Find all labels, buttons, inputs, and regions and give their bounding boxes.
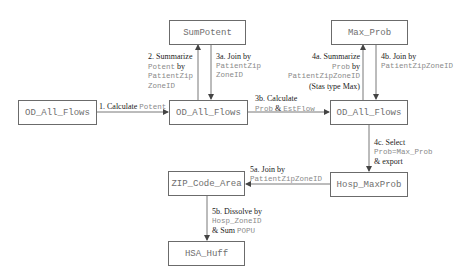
node-od-all-flows-input: OD_All_Flows [18, 100, 97, 125]
step3b-title: 3b. Calculate [255, 94, 315, 104]
node-od-all-flows-middle: OD_All_Flows [169, 100, 248, 125]
step4c-code1: Prob=Max_Prob [374, 148, 433, 158]
label-step4c: 4c. Select Prob=Max_Prob & export [374, 138, 433, 167]
node-sum-potent: SumPotent [169, 20, 246, 45]
node-hsa-huff: HSA_Huff [168, 241, 245, 266]
step4a-by: by [352, 62, 360, 71]
step2-code1: Potent [148, 63, 175, 71]
label-step5a: 5a. Join by PatientZipZoneID [250, 165, 322, 184]
step4a-code2: PatientZipZoneID [280, 72, 360, 82]
step5a-title: 5a. Join by [250, 165, 322, 175]
label-step3a: 3a. Join by PatientZip ZoneID [216, 52, 261, 81]
step3a-code2: ZoneID [216, 71, 261, 81]
step5b-code2: POPU [237, 227, 255, 235]
step4a-code1: Prob [332, 63, 350, 71]
step4c-export: & export [374, 157, 433, 167]
node-max-prob: Max_Prob [331, 20, 408, 45]
step4c-title: 4c. Select [374, 138, 433, 148]
node-od-all-flows-right: OD_All_Flows [330, 100, 408, 125]
node-hosp-maxprob: Hosp_MaxProb [330, 172, 408, 197]
step1-text: 1. Calculate [99, 102, 137, 111]
workflow-diagram: OD_All_Flows SumPotent OD_All_Flows Max_… [0, 0, 473, 279]
step3b-code2: EstFlow [283, 105, 315, 113]
step2-code2: PatientZip [148, 72, 193, 82]
step5b-title: 5b. Dissolve by [212, 207, 262, 217]
step1-code: Potent [139, 103, 166, 111]
step2-title: 2. Summarize [148, 52, 193, 62]
label-step4a: 4a. Summarize Prob by PatientZipZoneID (… [280, 52, 360, 91]
label-step4b: 4b. Join by PatientZipZoneID [381, 52, 453, 71]
step3a-title: 3a. Join by [216, 52, 261, 62]
step3b-amp: & [275, 104, 281, 113]
step4b-code1: PatientZipZoneID [381, 62, 453, 72]
node-zip-code-area: ZIP_Code_Area [168, 171, 245, 196]
step5b-code1: Hosp_ZoneID [212, 217, 262, 227]
step2-code3: ZoneID [148, 82, 193, 92]
step3b-code1: Prob [255, 105, 273, 113]
step4a-stats-type: (Stas type Max) [280, 82, 360, 92]
step5a-code1: PatientZipZoneID [250, 175, 322, 185]
label-step5b: 5b. Dissolve by Hosp_ZoneID & Sum POPU [212, 207, 262, 237]
label-step3b: 3b. Calculate Prob & EstFlow [255, 94, 315, 114]
step4b-title: 4b. Join by [381, 52, 453, 62]
step5b-amp: & Sum [212, 226, 235, 235]
step3a-code1: PatientZip [216, 62, 261, 72]
step2-by: by [177, 62, 185, 71]
label-step2: 2. Summarize Potent by PatientZip ZoneID [148, 52, 193, 91]
step4a-title: 4a. Summarize [280, 52, 360, 62]
label-step1: 1. Calculate Potent [99, 102, 166, 113]
